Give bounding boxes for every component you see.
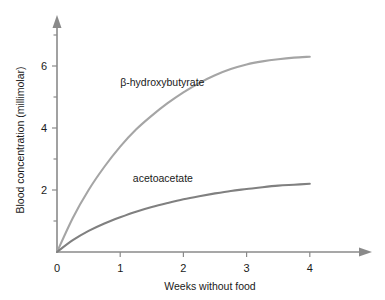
y-tick-label: 2 [41,184,47,196]
x-tick-label: 3 [244,262,250,274]
x-tick-label: 2 [180,262,186,274]
chart-figure: 246 Blood concentration (millimolar) 012… [0,0,385,300]
x-tick-label: 1 [117,262,123,274]
x-axis-title: Weeks without food [164,280,256,292]
series-label-1: acetoacetate [133,172,193,184]
x-tick-label: 0 [54,262,60,274]
y-tick-label: 4 [41,122,47,134]
x-tick-label: 4 [307,262,313,274]
ketone-concentration-line-chart: 246 Blood concentration (millimolar) 012… [0,0,385,300]
y-tick-label: 6 [41,60,47,72]
y-axis-title: Blood concentration (millimolar) [14,66,26,213]
series-label-0: β-hydroxybutyrate [120,76,204,88]
